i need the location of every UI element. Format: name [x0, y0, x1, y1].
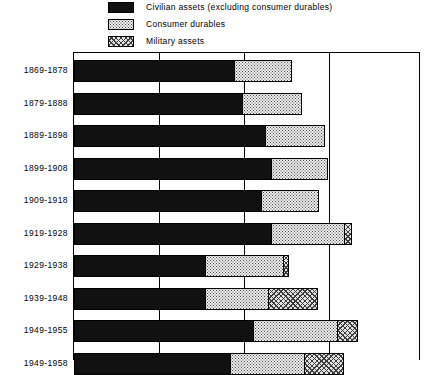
bar-segment-dots [271, 223, 345, 245]
legend-label-civilian: Civilian assets (excluding consumer dura… [146, 2, 332, 13]
bar-segment-solid [74, 255, 206, 277]
bar-row [74, 93, 302, 115]
bar-segment-dots [253, 320, 338, 342]
bar-segment-dots [265, 125, 325, 147]
bar-segment-hatch [283, 255, 289, 277]
bar-segment-hatch [268, 288, 318, 310]
bar-segment-dots [234, 60, 293, 82]
bar-group [74, 53, 419, 360]
bar-segment-dots [205, 288, 270, 310]
bar-segment-dots [271, 158, 328, 180]
y-axis-label: 1899-1908 [0, 163, 68, 173]
legend-swatch-civilian-icon [108, 2, 134, 13]
bar-segment-solid [74, 125, 266, 147]
y-axis-label: 1949-1958 [0, 358, 68, 368]
legend-label-consumer-durables: Consumer durables [146, 19, 225, 30]
bar-row [74, 353, 344, 375]
bar-segment-solid [74, 158, 272, 180]
bar-segment-hatch [344, 223, 352, 245]
legend-item-military: Military assets [108, 34, 332, 48]
bar-segment-solid [74, 353, 231, 375]
bar-segment-solid [74, 93, 243, 115]
y-axis-label: 1939-1948 [0, 293, 68, 303]
legend-item-consumer-durables: Consumer durables [108, 17, 332, 31]
y-axis-label: 1879-1888 [0, 98, 68, 108]
plot-area [73, 52, 420, 360]
bar-segment-solid [74, 288, 206, 310]
bar-segment-solid [74, 320, 254, 342]
y-axis-label: 1929-1938 [0, 260, 68, 270]
legend-swatch-military-icon [108, 36, 134, 47]
legend-item-civilian: Civilian assets (excluding consumer dura… [108, 0, 332, 14]
bar-segment-dots [261, 190, 320, 212]
bar-segment-dots [242, 93, 302, 115]
bar-segment-dots [205, 255, 284, 277]
legend-label-military: Military assets [146, 36, 204, 47]
bar-segment-hatch [337, 320, 357, 342]
bar-row [74, 125, 325, 147]
bar-row [74, 223, 352, 245]
bar-segment-hatch [304, 353, 344, 375]
bar-row [74, 288, 318, 310]
y-axis-label: 1909-1918 [0, 195, 68, 205]
bar-segment-solid [74, 223, 272, 245]
bar-row [74, 190, 319, 212]
y-axis-label: 1949-1955 [0, 325, 68, 335]
bar-row [74, 60, 292, 82]
legend-swatch-consumer-durables-icon [108, 19, 134, 30]
y-axis-label: 1919-1928 [0, 228, 68, 238]
bar-segment-solid [74, 60, 235, 82]
bar-row [74, 320, 358, 342]
bar-row [74, 255, 289, 277]
bar-segment-dots [230, 353, 305, 375]
chart-legend: Civilian assets (excluding consumer dura… [108, 0, 332, 51]
y-axis-label: 1889-1898 [0, 130, 68, 140]
y-axis-label: 1869-1878 [0, 65, 68, 75]
bar-segment-solid [74, 190, 262, 212]
bar-row [74, 158, 328, 180]
